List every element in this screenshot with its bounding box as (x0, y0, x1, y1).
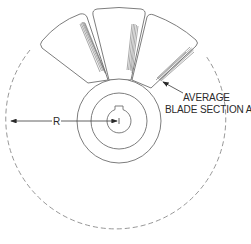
blade-section-label-line1: AVERAGE (183, 92, 230, 103)
radius-label: R (52, 116, 61, 127)
blade-section-leader (163, 82, 183, 93)
fan-rotor-diagram: R AVERAGE BLADE SECTION A (0, 0, 251, 244)
diagram-canvas (0, 0, 251, 244)
blade-section-label-line2: BLADE SECTION A (165, 104, 251, 115)
